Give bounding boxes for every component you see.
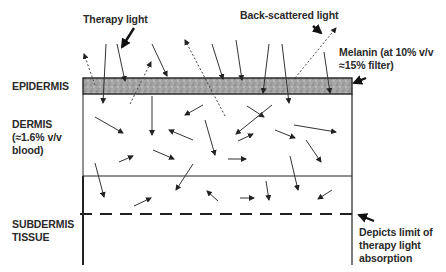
limit-label-line3: absorption [359, 252, 433, 265]
epidermis-layer [83, 78, 352, 94]
back-scattered-label: Back-scattered light [240, 9, 338, 22]
subdermis-label: SUBDERMIS TISSUE [12, 218, 74, 244]
melanin-label-line1: Melanin (at 10% v/v [339, 46, 433, 59]
dermis-label-line1: DERMIS [12, 118, 62, 131]
limit-label-line2: therapy light [359, 239, 433, 252]
limit-label-line1: Depicts limit of [359, 226, 433, 239]
back-scattered-arrows [84, 28, 336, 116]
back-scatter-callout-arrow [313, 26, 321, 33]
melanin-label: Melanin (at 10% v/v ≈15% filter) [339, 46, 433, 72]
therapy-light-callout-arrow [122, 28, 134, 47]
dermis-label: DERMIS (≈1.6% v/v blood) [12, 118, 62, 157]
subdermis-label-line1: SUBDERMIS [12, 218, 74, 231]
dermis-label-line2: (≈1.6% v/v [12, 131, 62, 144]
therapy-light-label: Therapy light [83, 13, 148, 26]
melanin-callout-arrow [354, 78, 366, 83]
absorption-limit-label: Depicts limit of therapy light absorptio… [359, 226, 433, 265]
dermis-scatter-arrows [95, 96, 336, 162]
subdermis-scatter-arrows [95, 156, 332, 206]
melanin-label-line2: ≈15% filter) [339, 59, 433, 72]
epidermis-label: EPIDERMIS [12, 80, 69, 93]
subdermis-label-line2: TISSUE [12, 231, 74, 244]
dermis-label-line3: blood) [12, 144, 62, 157]
limit-callout-arrow [359, 215, 374, 221]
